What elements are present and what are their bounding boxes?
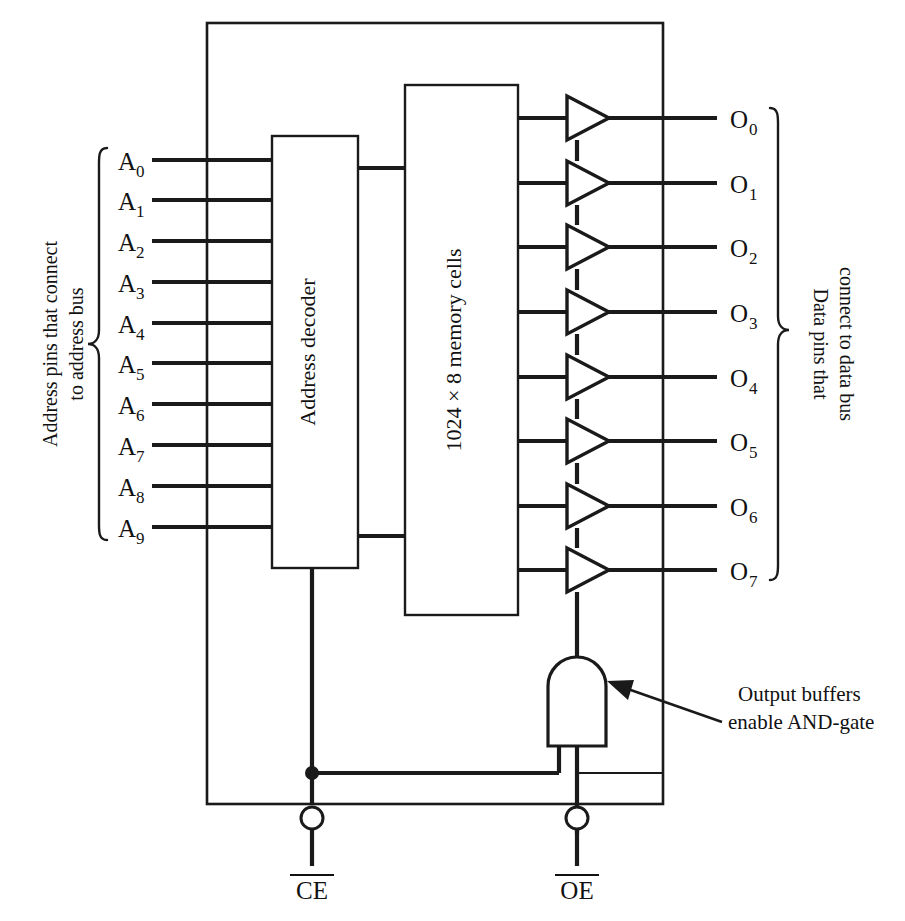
address-pin-sub-a5: 5 — [136, 365, 145, 384]
address-pin-sub-a3: 3 — [136, 284, 145, 303]
data-pin-label-o3: O — [730, 300, 748, 327]
address-pin-sub-a8: 8 — [136, 488, 145, 507]
address-pin-label-a6: A — [118, 392, 136, 419]
data-pin-sub-o2: 2 — [749, 249, 758, 268]
output-buffer-2 — [567, 225, 609, 269]
memory-array-label: 1024 × 8 memory cells — [441, 248, 466, 451]
output-buffer-4 — [567, 355, 609, 399]
data-pin-label-o2: O — [730, 235, 748, 262]
address-pin-brace — [88, 148, 107, 540]
oe-pin-label: OE — [560, 877, 593, 904]
data-pin-sub-o3: 3 — [749, 314, 758, 333]
annotation-arrow-line — [625, 688, 722, 722]
address-pin-sub-a1: 1 — [136, 202, 145, 221]
address-pin-label-a5: A — [118, 351, 136, 378]
address-pin-label-a4: A — [118, 311, 136, 338]
data-pin-brace — [770, 108, 789, 580]
data-pin-label-o5: O — [730, 429, 748, 456]
data-pin-sub-o7: 7 — [749, 572, 758, 591]
memory-to-buffer-wire-group — [518, 118, 567, 570]
output-buffer-0 — [567, 96, 609, 140]
address-pin-label-group: A 0 A 1 A 2 A 3 A 4 A 5 A 6 A 7 A 8 A 9 — [118, 148, 145, 548]
data-pin-label-o6: O — [730, 494, 748, 521]
data-pin-sub-o5: 5 — [749, 443, 758, 462]
data-pin-label-o0: O — [730, 106, 748, 133]
address-pin-group-label-line2: to address bus — [65, 287, 87, 401]
address-wire-group — [152, 160, 272, 527]
ce-pin-circle[interactable] — [301, 807, 323, 829]
address-pin-sub-a6: 6 — [136, 406, 145, 425]
data-pin-label-o4: O — [730, 365, 748, 392]
output-buffer-group — [567, 96, 609, 592]
output-buffer-7 — [567, 548, 609, 592]
address-pin-label-a3: A — [118, 270, 136, 297]
address-pin-label-a0: A — [118, 148, 136, 175]
data-pin-group-label-line1: Data pins that — [809, 288, 832, 400]
address-pin-sub-a0: 0 — [136, 162, 145, 181]
output-buffer-5 — [567, 419, 609, 463]
annotation-label-line1: Output buffers — [738, 682, 861, 706]
data-pin-sub-o6: 6 — [749, 508, 758, 527]
data-pin-group-label-line2: connect to data bus — [836, 267, 858, 421]
address-pin-sub-a4: 4 — [136, 325, 145, 344]
address-pin-label-a1: A — [118, 188, 136, 215]
address-pin-label-a8: A — [118, 474, 136, 501]
output-buffer-3 — [567, 290, 609, 334]
data-pin-label-o1: O — [730, 171, 748, 198]
output-buffer-6 — [567, 484, 609, 528]
data-pin-label-group: O 0 O 1 O 2 O 3 O 4 O 5 O 6 O 7 — [730, 106, 758, 591]
address-pin-sub-a9: 9 — [136, 529, 145, 548]
memory-chip-block-diagram: Address decoder 1024 × 8 memory cells — [0, 0, 905, 921]
data-pin-sub-o4: 4 — [749, 379, 758, 398]
annotation-arrow-head — [607, 680, 634, 700]
address-pin-group-label-line1: Address pins that connect — [39, 241, 62, 448]
address-pin-sub-a2: 2 — [136, 243, 145, 262]
output-enable-and-gate — [548, 657, 606, 746]
data-pin-sub-o1: 1 — [749, 185, 758, 204]
oe-pin-circle[interactable] — [566, 807, 588, 829]
address-pin-sub-a7: 7 — [136, 447, 145, 466]
ce-pin-label: CE — [296, 877, 328, 904]
address-decoder-label: Address decoder — [295, 278, 320, 426]
annotation-label-line2: enable AND-gate — [728, 710, 874, 734]
data-pin-sub-o0: 0 — [749, 120, 758, 139]
data-pin-label-o7: O — [730, 558, 748, 585]
address-pin-label-a2: A — [118, 229, 136, 256]
output-buffer-1 — [567, 161, 609, 205]
address-pin-label-a7: A — [118, 433, 136, 460]
diagram-canvas: Address decoder 1024 × 8 memory cells — [0, 0, 905, 921]
address-pin-label-a9: A — [118, 515, 136, 542]
